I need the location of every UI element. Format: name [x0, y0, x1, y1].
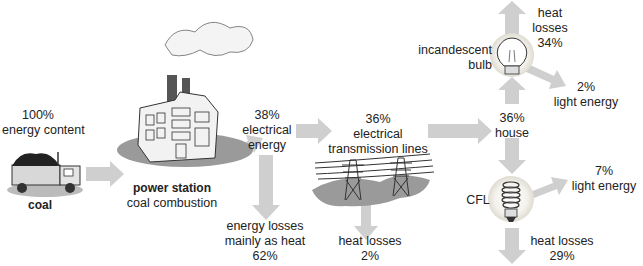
station-loss-line1: energy losses	[215, 219, 315, 234]
coal-caption: energy content	[2, 123, 74, 138]
station-loss-label: energy losses mainly as heat 62%	[215, 219, 315, 264]
incandescent-heat-line1: heat	[528, 6, 572, 21]
power-station-title: power station	[122, 181, 222, 196]
incandescent-line1: incandescent	[402, 43, 492, 58]
house-label: 36% house	[490, 111, 534, 141]
electrical-line2: energy	[232, 138, 302, 153]
station-loss-percent: 62%	[215, 249, 315, 264]
electrical-line1: electrical	[232, 123, 302, 138]
electrical-energy-label: 38% electrical energy	[232, 108, 302, 153]
house-percent: 36%	[490, 111, 534, 126]
transmission-line2: transmission lines	[318, 142, 438, 157]
transmission-towers-icon	[312, 154, 434, 206]
arrow-cfl-light	[530, 177, 568, 198]
power-station-label: power station coal combustion	[122, 181, 222, 211]
transmission-loss-percent: 2%	[330, 249, 410, 264]
cfl-bulb-icon	[488, 176, 534, 222]
coal-truck-icon	[7, 152, 83, 197]
arrow-house-to-bulb	[498, 77, 526, 104]
arrow-station-loss	[252, 155, 280, 220]
cfl-light-text: light energy	[564, 179, 643, 194]
coal-energy-label: 100% energy content	[2, 108, 74, 138]
transmission-percent: 36%	[318, 112, 438, 127]
transmission-line1: electrical	[318, 127, 438, 142]
transmission-loss-label: heat losses 2%	[330, 234, 410, 264]
cfl-heat-text: heat losses	[522, 234, 602, 249]
cfl-light-label: 7% light energy	[564, 164, 643, 194]
incandescent-heat-line2: losses	[528, 21, 572, 36]
arrow-house-to-cfl	[498, 138, 526, 174]
house-text: house	[490, 126, 534, 141]
incandescent-heat-label: heat losses 34%	[528, 6, 572, 51]
incandescent-line2: bulb	[402, 58, 492, 73]
incandescent-light-percent: 2%	[546, 80, 626, 95]
coal-percent: 100%	[2, 108, 74, 123]
incandescent-label: incandescent bulb	[402, 43, 492, 73]
incandescent-light-text: light energy	[546, 95, 626, 110]
electrical-percent: 38%	[232, 108, 302, 123]
station-loss-line2: mainly as heat	[215, 234, 315, 249]
transmission-loss-line1: heat losses	[330, 234, 410, 249]
cfl-light-percent: 7%	[564, 164, 643, 179]
coal-label: coal	[20, 198, 60, 213]
incandescent-light-label: 2% light energy	[546, 80, 626, 110]
power-station-subtitle: coal combustion	[122, 196, 222, 211]
transmission-label: 36% electrical transmission lines	[318, 112, 438, 157]
arrow-coal-to-station	[86, 161, 124, 187]
cfl-heat-label: heat losses 29%	[522, 234, 602, 264]
cfl-label: CFL	[464, 193, 492, 208]
cfl-heat-percent: 29%	[522, 249, 602, 264]
incandescent-heat-percent: 34%	[528, 36, 572, 51]
